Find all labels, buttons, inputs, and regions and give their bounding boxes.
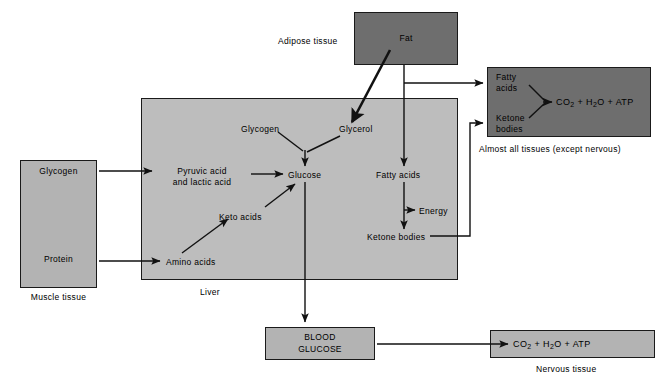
metabolism-diagram: Glycogen Protein Muscle tissue Liver Fat…: [0, 0, 669, 379]
muscle-tissue-caption: Muscle tissue: [10, 292, 107, 302]
liver-glycogen-label: Glycogen: [241, 124, 279, 135]
liver-lactic-acid-line2: and lactic acid: [158, 177, 246, 188]
muscle-glycogen-label: Glycogen: [20, 166, 97, 177]
liver-box: [141, 98, 458, 280]
all-tissues-ketone-bodies-line2: bodies: [496, 124, 523, 135]
liver-ketone-bodies-label: Ketone bodies: [367, 232, 425, 243]
liver-pyruvic-acid-line1: Pyruvic acid: [158, 166, 246, 177]
blood-glucose-line2: GLUCOSE: [265, 344, 375, 355]
liver-glucose-label: Glucose: [288, 170, 321, 181]
liver-energy-label: Energy: [419, 206, 448, 217]
liver-caption: Liver: [170, 287, 250, 297]
nervous-tissue-caption: Nervous tissue: [536, 364, 596, 374]
adipose-tissue-caption: Adipose tissue: [278, 36, 337, 46]
all-tissues-fatty-acids-line1: Fatty: [496, 72, 516, 83]
fat-label: Fat: [354, 33, 458, 44]
blood-glucose-line1: BLOOD: [265, 332, 375, 343]
muscle-protein-label: Protein: [20, 254, 97, 265]
liver-fatty-acids-label: Fatty acids: [376, 170, 420, 181]
liver-keto-acids-label: Keto acids: [219, 212, 262, 223]
nervous-tissue-product-equation: CO2 + H2O + ATP: [513, 339, 591, 349]
all-tissues-product-equation: CO2 + H2O + ATP: [556, 97, 634, 107]
liver-amino-acids-label: Amino acids: [166, 257, 216, 268]
all-tissues-ketone-bodies-line1: Ketone: [496, 113, 525, 124]
all-tissues-fatty-acids-line2: acids: [496, 83, 517, 94]
all-tissues-caption: Almost all tissues (except nervous): [479, 144, 621, 154]
liver-glycerol-label: Glycerol: [339, 124, 373, 135]
muscle-tissue-box: [20, 160, 97, 288]
